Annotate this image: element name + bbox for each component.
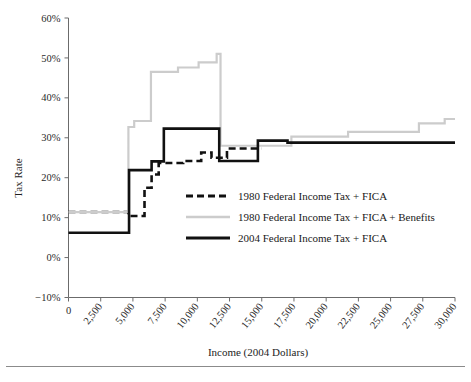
x-tick-label: 25,000: [368, 301, 394, 331]
x-tick-label: 27,500: [400, 301, 426, 331]
y-tick-label: 60%: [41, 13, 61, 24]
x-tick-label: 7,500: [145, 301, 168, 326]
y-tick-label: 20%: [41, 172, 61, 183]
y-axis-ticks: −10%0%10%20%30%40%50%60%: [35, 13, 68, 304]
y-tick-label: −10%: [35, 292, 60, 303]
series-group: [69, 54, 456, 233]
legend-label-1: 1980 Federal Income Tax + FICA + Benefit…: [238, 211, 435, 223]
chart-figure: −10%0%10%20%30%40%50%60% 02,5005,0007,50…: [0, 0, 471, 382]
x-tick-label: 22,500: [336, 301, 362, 331]
x-tick-label: 12,500: [207, 301, 233, 331]
y-tick-label: 50%: [41, 53, 61, 64]
y-axis-title: Tax Rate: [12, 158, 24, 197]
x-tick-label: 0: [66, 305, 71, 316]
series-line-1: [69, 54, 456, 212]
y-tick-label: 0%: [47, 252, 61, 263]
footer-divider: [6, 366, 465, 367]
x-tick-label: 2,500: [81, 301, 104, 326]
x-tick-label: 15,000: [239, 301, 265, 331]
y-tick-label: 30%: [41, 132, 61, 143]
legend-label-2: 2004 Federal Income Tax + FICA: [238, 232, 387, 244]
x-axis-title: Income (2004 Dollars): [208, 346, 309, 359]
y-tick-label: 10%: [41, 212, 61, 223]
x-axis-ticks: 02,5005,0007,50010,00012,50015,00017,500…: [66, 298, 459, 331]
y-tick-label: 40%: [41, 92, 61, 103]
x-tick-label: 30,000: [432, 301, 458, 331]
chart-legend: 1980 Federal Income Tax + FICA1980 Feder…: [186, 190, 435, 244]
x-tick-label: 20,000: [303, 301, 329, 331]
x-tick-label: 17,500: [271, 301, 297, 331]
x-tick-label: 5,000: [113, 301, 136, 326]
x-tick-label: 10,000: [174, 301, 200, 331]
tax-rate-line-chart: −10%0%10%20%30%40%50%60% 02,5005,0007,50…: [0, 0, 471, 382]
legend-label-0: 1980 Federal Income Tax + FICA: [238, 190, 387, 202]
